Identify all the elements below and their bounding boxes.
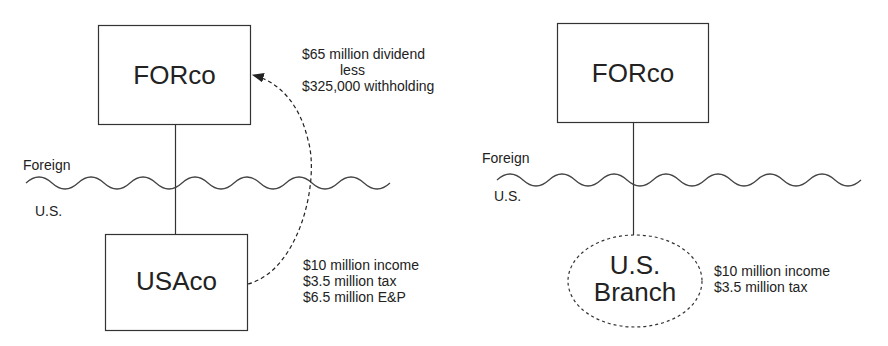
usaco-note-line2: $3.5 million tax [303, 273, 419, 289]
foreign-label-left: Foreign [23, 157, 70, 173]
dividend-note-line2: less [302, 62, 434, 78]
foreign-label-right: Foreign [482, 150, 529, 166]
border-wave-right [497, 174, 861, 186]
border-wave-left [26, 177, 390, 189]
dividend-note-line3: $325,000 withholding [302, 78, 434, 94]
branch-label: U.S. Branch [568, 252, 702, 306]
usaco-note: $10 million income $3.5 million tax $6.5… [303, 257, 419, 305]
usaco-note-line1: $10 million income [303, 257, 419, 273]
forco-label-right: FORco [557, 58, 709, 89]
branch-note-line1: $10 million income [714, 263, 830, 279]
forco-label-left: FORco [98, 60, 251, 91]
us-label-left: U.S. [35, 203, 62, 219]
dividend-note-line1: $65 million dividend [302, 46, 434, 62]
us-label-right: U.S. [494, 188, 521, 204]
usaco-label: USAco [105, 266, 248, 297]
branch-label-line1: U.S. [568, 252, 702, 279]
branch-label-line2: Branch [568, 279, 702, 306]
branch-note: $10 million income $3.5 million tax [714, 263, 830, 295]
branch-note-line2: $3.5 million tax [714, 279, 830, 295]
dividend-arrow [248, 75, 311, 284]
usaco-note-line3: $6.5 million E&P [303, 289, 419, 305]
dividend-note: $65 million dividend less $325,000 withh… [302, 46, 434, 94]
